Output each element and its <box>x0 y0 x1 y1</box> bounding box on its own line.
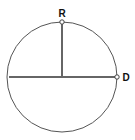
point-r <box>60 20 64 24</box>
circle-diagram: R D <box>0 0 135 140</box>
label-r: R <box>58 8 66 19</box>
label-d: D <box>122 72 129 83</box>
point-d <box>115 75 119 79</box>
